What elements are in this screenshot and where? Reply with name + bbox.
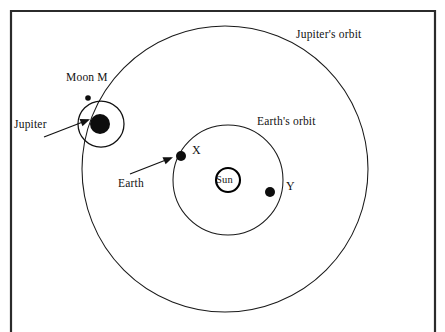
moon-m-label: Moon M bbox=[66, 72, 108, 84]
jupiter-body bbox=[90, 114, 110, 134]
jupiter-label: Jupiter bbox=[14, 119, 47, 131]
earth-label: Earth bbox=[118, 178, 144, 190]
diagram-canvas bbox=[0, 0, 445, 332]
earths-orbit-label: Earth's orbit bbox=[257, 116, 316, 128]
jupiters-orbit-label: Jupiter's orbit bbox=[296, 29, 361, 41]
earth-position-y-dot bbox=[265, 187, 275, 197]
sun-label: Sun bbox=[216, 175, 233, 186]
earth-leader-arrowhead bbox=[163, 157, 174, 164]
moon-m-body bbox=[85, 95, 91, 101]
point-x-label: X bbox=[192, 144, 201, 156]
earth-position-x-dot bbox=[176, 151, 186, 161]
diagram-root: Jupiter's orbit Earth's orbit Moon M Jup… bbox=[0, 0, 445, 332]
point-y-label: Y bbox=[286, 180, 295, 192]
